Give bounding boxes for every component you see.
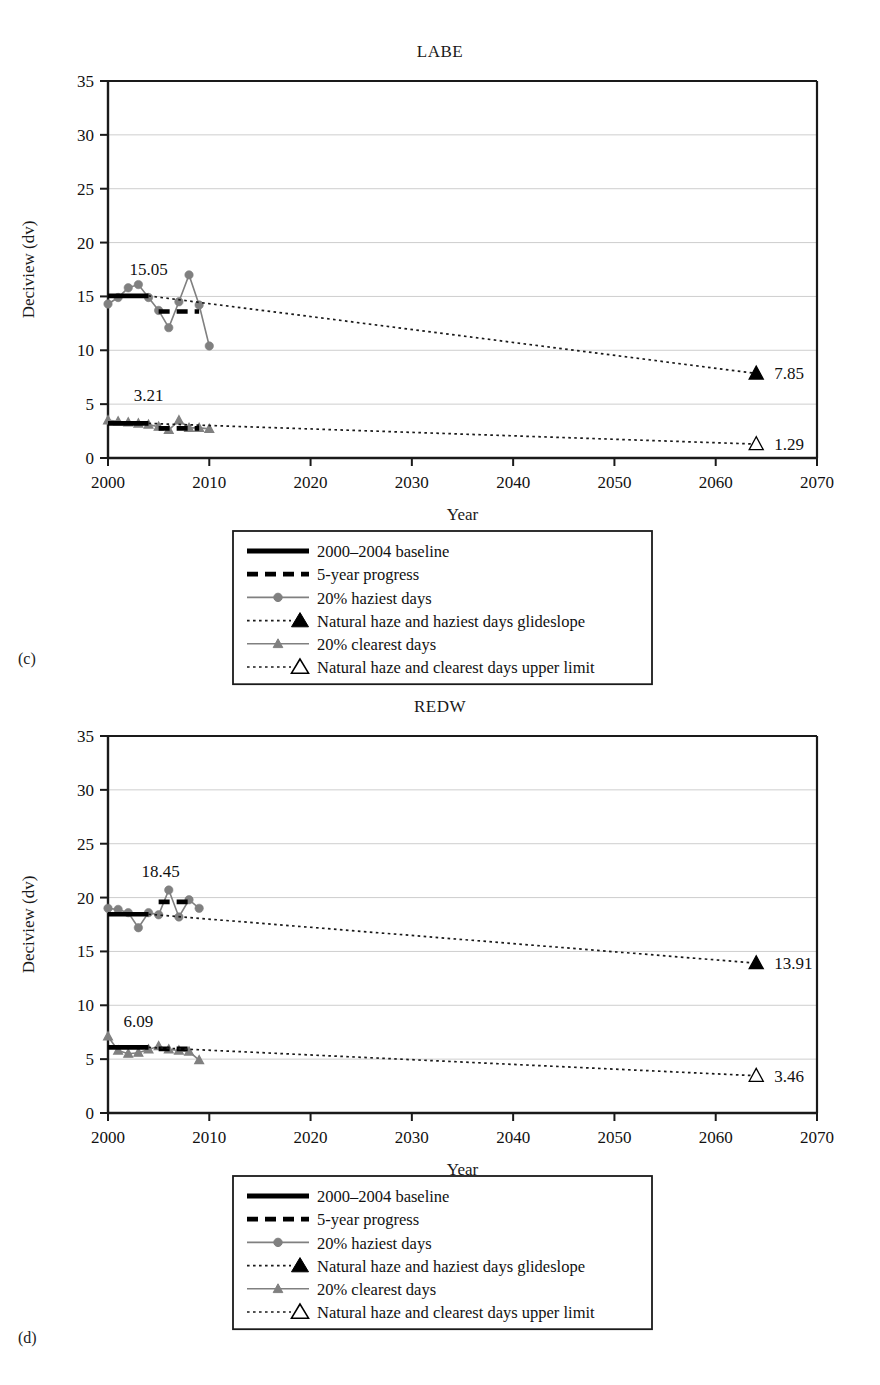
- x-tick-label: 2070: [800, 473, 834, 492]
- baseline-value-label: 3.21: [134, 386, 164, 405]
- y-axis: 05101520253035: [77, 72, 108, 468]
- legend: 2000–2004 baseline5-year progress20% haz…: [233, 1176, 652, 1329]
- y-tick-label: 20: [77, 234, 94, 253]
- y-tick-label: 10: [77, 996, 94, 1015]
- y-tick-label: 35: [77, 727, 94, 746]
- legend-item-label: Natural haze and clearest days upper lim…: [317, 1303, 595, 1322]
- chart-svg-redw: 0510152025303520002010202020302040205020…: [0, 655, 880, 1385]
- y-tick-label: 30: [77, 781, 94, 800]
- y-axis: 05101520253035: [77, 727, 108, 1123]
- data-point-haziest: [185, 271, 193, 279]
- x-tick-label: 2060: [699, 1128, 733, 1147]
- x-tick-label: 2040: [496, 1128, 530, 1147]
- plot-frame: [108, 736, 817, 1113]
- y-tick-label: 0: [86, 449, 95, 468]
- glideslope-line-haziest: [149, 296, 757, 374]
- y-axis-title: Deciview (dv): [19, 221, 38, 319]
- chart-canvas-redw: 0510152025303520002010202020302040205020…: [0, 655, 880, 1385]
- y-tick-label: 20: [77, 889, 94, 908]
- legend-item-label: 5-year progress: [317, 1210, 419, 1229]
- baseline-value-label: 15.05: [129, 260, 167, 279]
- y-tick-label: 25: [77, 835, 94, 854]
- legend-item-label: Natural haze and haziest days glideslope: [317, 612, 585, 631]
- data-point-haziest: [134, 280, 142, 288]
- x-tick-label: 2040: [496, 473, 530, 492]
- upperlimit-endpoint-open-triangle: [749, 1068, 763, 1081]
- data-point-haziest: [134, 924, 142, 932]
- legend-item-label: 2000–2004 baseline: [317, 542, 449, 561]
- y-axis-title: Deciview (dv): [19, 876, 38, 974]
- baseline-value-label: 6.09: [124, 1012, 154, 1031]
- x-tick-label: 2020: [294, 1128, 328, 1147]
- annotations: 15.053.217.851.29: [129, 260, 804, 454]
- legend-swatch-circle-icon: [274, 1238, 282, 1246]
- glideslope-endpoint-filled-triangle: [749, 956, 763, 969]
- glideslope-line-clearest: [149, 1047, 757, 1075]
- x-tick-label: 2070: [800, 1128, 834, 1147]
- chart-canvas-labe: 0510152025303520002010202020302040205020…: [0, 0, 880, 704]
- legend-item-label: 20% clearest days: [317, 1280, 436, 1299]
- legend-item-label: 5-year progress: [317, 565, 419, 584]
- data-point-haziest: [165, 323, 173, 331]
- x-tick-label: 2060: [699, 473, 733, 492]
- x-tick-label: 2010: [192, 473, 226, 492]
- legend-item-label: Natural haze and haziest days glideslope: [317, 1257, 585, 1276]
- data-point-haziest: [195, 904, 203, 912]
- x-tick-label: 2030: [395, 473, 429, 492]
- gridlines: [108, 81, 817, 404]
- legend-item-label: 20% clearest days: [317, 635, 436, 654]
- data-point-haziest: [165, 886, 173, 894]
- data-point-haziest: [104, 300, 112, 308]
- endpoint-value-label: 13.91: [774, 954, 812, 973]
- annotations: 18.456.0913.913.46: [124, 862, 813, 1086]
- y-tick-label: 5: [86, 1050, 95, 1069]
- y-tick-label: 25: [77, 180, 94, 199]
- data-point-haziest: [205, 342, 213, 350]
- y-tick-label: 35: [77, 72, 94, 91]
- y-tick-label: 15: [77, 287, 94, 306]
- legend-swatch-circle-icon: [274, 593, 282, 601]
- x-tick-label: 2010: [192, 1128, 226, 1147]
- x-axis-title: Year: [447, 505, 479, 524]
- legend-item-label: 2000–2004 baseline: [317, 1187, 449, 1206]
- x-axis: 20002010202020302040205020602070: [91, 458, 834, 492]
- x-tick-label: 2030: [395, 1128, 429, 1147]
- glideslope-line-haziest: [149, 914, 757, 963]
- endpoint-value-label: 3.46: [774, 1067, 804, 1086]
- glideslope-line-clearest: [149, 423, 757, 444]
- data-point-clearest: [104, 1032, 113, 1040]
- data-point-haziest: [104, 904, 112, 912]
- chart-svg-labe: 0510152025303520002010202020302040205020…: [0, 0, 880, 700]
- figure-panel-d: REDW (d) 0510152025303520002010202020302…: [0, 655, 880, 1385]
- endpoint-value-label: 7.85: [774, 364, 804, 383]
- y-tick-label: 0: [86, 1104, 95, 1123]
- y-tick-label: 5: [86, 395, 95, 414]
- data-point-clearest: [175, 416, 184, 424]
- x-tick-label: 2000: [91, 1128, 125, 1147]
- gridlines: [108, 736, 817, 1059]
- x-tick-label: 2050: [597, 473, 631, 492]
- y-tick-label: 15: [77, 942, 94, 961]
- legend-item-label: 20% haziest days: [317, 589, 432, 608]
- x-axis: 20002010202020302040205020602070: [91, 1113, 834, 1147]
- x-tick-label: 2050: [597, 1128, 631, 1147]
- endpoint-value-label: 1.29: [774, 435, 804, 454]
- x-tick-label: 2000: [91, 473, 125, 492]
- data-point-haziest: [124, 284, 132, 292]
- figure-panel-c: LABE (c) 0510152025303520002010202020302…: [0, 0, 880, 700]
- data-point-haziest: [175, 298, 183, 306]
- plot-frame: [108, 81, 817, 458]
- legend-item-label: 20% haziest days: [317, 1234, 432, 1253]
- y-tick-label: 30: [77, 126, 94, 145]
- x-tick-label: 2020: [294, 473, 328, 492]
- baseline-value-label: 18.45: [142, 862, 180, 881]
- upperlimit-endpoint-open-triangle: [749, 437, 763, 450]
- y-tick-label: 10: [77, 341, 94, 360]
